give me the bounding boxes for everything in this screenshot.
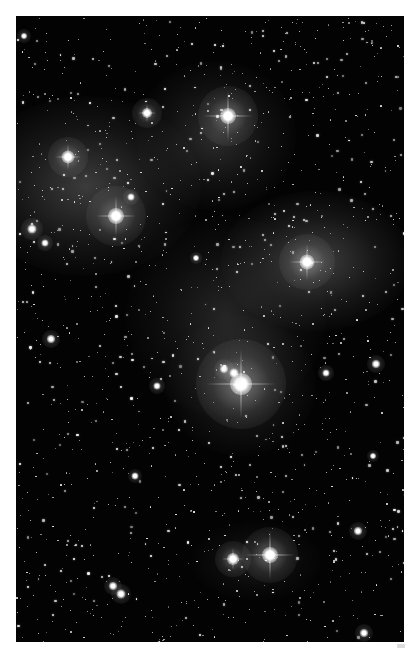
background-star bbox=[243, 310, 244, 311]
background-star bbox=[351, 158, 353, 160]
background-star bbox=[272, 492, 273, 493]
background-star bbox=[151, 465, 152, 466]
background-star bbox=[380, 520, 381, 521]
page bbox=[0, 0, 416, 654]
background-star bbox=[324, 626, 326, 628]
background-star bbox=[143, 94, 145, 96]
background-star bbox=[41, 153, 43, 155]
background-star bbox=[403, 232, 404, 234]
background-star bbox=[25, 269, 26, 270]
background-star bbox=[268, 147, 269, 148]
background-star bbox=[402, 530, 404, 532]
background-star bbox=[274, 87, 275, 88]
background-star bbox=[298, 544, 299, 545]
background-star bbox=[144, 33, 145, 34]
background-star bbox=[106, 168, 108, 170]
background-star bbox=[327, 637, 328, 638]
background-star bbox=[310, 620, 312, 622]
background-star bbox=[43, 286, 44, 287]
background-star bbox=[33, 304, 35, 306]
background-star bbox=[365, 114, 366, 115]
background-star bbox=[396, 441, 399, 444]
background-star bbox=[123, 248, 125, 250]
background-star bbox=[62, 225, 63, 226]
background-star bbox=[101, 148, 102, 149]
background-star bbox=[230, 456, 232, 458]
background-star bbox=[166, 524, 167, 525]
background-star bbox=[249, 609, 250, 610]
background-star bbox=[368, 129, 369, 130]
background-star bbox=[263, 641, 264, 642]
background-star bbox=[81, 449, 82, 450]
background-star bbox=[355, 21, 356, 22]
background-star bbox=[331, 313, 332, 314]
background-star bbox=[51, 404, 52, 405]
background-star bbox=[195, 113, 196, 114]
background-star bbox=[171, 626, 172, 627]
background-star bbox=[314, 108, 315, 109]
background-star bbox=[214, 636, 216, 638]
background-star bbox=[224, 535, 225, 536]
background-star bbox=[82, 196, 83, 197]
background-star bbox=[287, 448, 288, 449]
background-star bbox=[143, 366, 145, 368]
background-star bbox=[153, 296, 154, 297]
background-star bbox=[251, 37, 252, 38]
background-star bbox=[397, 510, 399, 512]
background-star bbox=[121, 450, 122, 451]
background-star bbox=[141, 251, 142, 252]
background-star bbox=[212, 200, 214, 202]
background-star bbox=[215, 511, 217, 513]
background-star bbox=[126, 449, 129, 452]
background-star bbox=[191, 545, 192, 546]
background-star bbox=[80, 230, 81, 231]
background-star bbox=[85, 175, 87, 177]
background-star bbox=[337, 522, 339, 524]
background-star bbox=[233, 617, 234, 618]
background-star bbox=[268, 501, 270, 503]
background-star bbox=[261, 306, 263, 308]
background-star bbox=[257, 496, 260, 499]
background-star bbox=[139, 445, 140, 446]
background-star bbox=[191, 287, 192, 288]
background-star bbox=[296, 203, 298, 205]
background-star bbox=[52, 614, 54, 616]
background-star bbox=[123, 357, 124, 358]
background-star bbox=[315, 192, 316, 193]
background-star bbox=[95, 273, 97, 275]
background-star bbox=[313, 97, 314, 98]
background-star bbox=[274, 218, 276, 220]
background-star bbox=[179, 199, 180, 200]
background-star bbox=[83, 268, 84, 269]
background-star bbox=[343, 27, 344, 28]
background-star bbox=[112, 246, 113, 247]
background-star bbox=[370, 161, 372, 163]
background-star bbox=[189, 138, 191, 140]
background-star bbox=[50, 585, 51, 586]
background-star bbox=[135, 71, 136, 72]
background-star bbox=[159, 66, 160, 67]
background-star bbox=[73, 593, 75, 595]
background-star bbox=[106, 29, 107, 30]
background-star bbox=[266, 87, 267, 88]
background-star bbox=[17, 337, 18, 338]
background-star bbox=[328, 88, 329, 89]
background-star bbox=[67, 433, 69, 435]
background-star bbox=[212, 629, 213, 630]
background-star bbox=[374, 56, 375, 57]
background-star bbox=[323, 96, 324, 97]
background-star bbox=[268, 20, 269, 21]
background-star bbox=[289, 394, 290, 395]
background-star bbox=[128, 456, 129, 457]
background-star bbox=[203, 348, 204, 349]
background-star bbox=[86, 587, 87, 588]
background-star bbox=[377, 53, 378, 54]
background-star bbox=[313, 125, 314, 126]
background-star bbox=[263, 113, 264, 114]
background-star bbox=[171, 188, 172, 189]
background-star bbox=[180, 180, 181, 181]
background-star bbox=[316, 134, 318, 136]
background-star bbox=[96, 605, 98, 607]
background-star bbox=[168, 442, 169, 443]
background-star bbox=[18, 485, 19, 486]
